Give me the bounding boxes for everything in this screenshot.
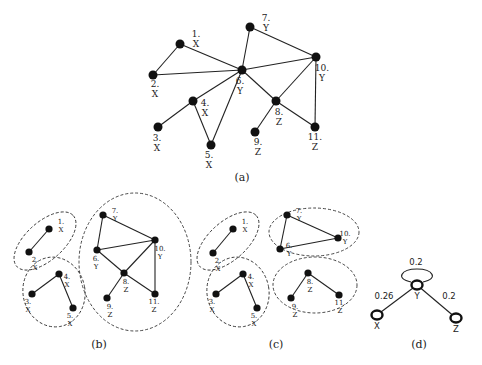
panel-caption: (c) xyxy=(269,338,284,351)
graph-node xyxy=(28,290,35,297)
node-class-label: Y xyxy=(93,263,99,271)
graph-node xyxy=(287,294,294,301)
panel-a-full-graph: 1.X2.X3.X4.X5.X6.Y7.Y8.Z9.Z10.Y11.Z(a) xyxy=(149,13,330,184)
node-number-label: 2. xyxy=(215,257,222,265)
graph-node xyxy=(229,225,236,232)
graph-node xyxy=(99,211,106,218)
class-node xyxy=(412,281,423,290)
edge xyxy=(153,44,180,75)
edge xyxy=(242,27,250,70)
node-number-label: 4. xyxy=(201,98,210,108)
edge xyxy=(153,70,242,75)
edge xyxy=(193,70,242,101)
graph-node xyxy=(246,23,255,32)
node-class-label: Z xyxy=(308,286,313,294)
cluster-boundary xyxy=(201,252,274,332)
node-number-label: 1. xyxy=(242,218,249,226)
node-class-label: Y xyxy=(296,215,302,223)
node-number-label: 10. xyxy=(315,63,329,73)
node-class-label: X xyxy=(59,226,64,234)
panel-c-refined-clusters: 1.X2.X3.X4.X5.X6.Y7.Y8.Z9.Z10.Y11.Z(c) xyxy=(187,201,359,351)
node-number-label: 1. xyxy=(192,29,201,39)
edge xyxy=(417,285,456,318)
node-number-label: 2. xyxy=(151,79,160,89)
node-number-label: 6. xyxy=(286,242,293,250)
node-class-label: Y xyxy=(318,73,326,83)
node-class-label: Z xyxy=(276,117,282,127)
graph-node xyxy=(93,246,100,253)
node-class-label: X xyxy=(193,39,200,49)
class-node-label: Z xyxy=(453,324,459,334)
node-class-label: X xyxy=(152,89,159,99)
graph-node xyxy=(251,128,260,137)
class-node-label: Y xyxy=(413,291,420,301)
edge-weight-label: 0.26 xyxy=(375,291,394,301)
node-number-label: 10. xyxy=(154,245,165,253)
graph-node xyxy=(311,123,320,132)
graph-node xyxy=(55,270,62,277)
edge xyxy=(250,27,316,57)
panel-caption: (d) xyxy=(411,338,427,351)
node-number-label: 3. xyxy=(209,298,216,306)
edge xyxy=(107,273,124,298)
node-class-label: Z xyxy=(312,142,318,152)
node-class-label: X xyxy=(252,320,257,328)
class-node-label: X xyxy=(374,321,380,331)
class-node xyxy=(372,311,383,320)
node-number-label: 9. xyxy=(107,303,114,311)
node-class-label: Z xyxy=(124,286,129,294)
node-number-label: 1. xyxy=(58,218,65,226)
node-number-label: 9. xyxy=(254,137,263,147)
node-class-label: Z xyxy=(152,306,157,314)
edge xyxy=(103,215,155,240)
graph-node xyxy=(103,294,110,301)
graph-node xyxy=(151,236,158,243)
node-number-label: 3. xyxy=(153,133,162,143)
node-number-label: 4. xyxy=(64,273,71,281)
node-class-label: Y xyxy=(236,86,244,96)
graph-node xyxy=(189,97,198,106)
node-class-label: X xyxy=(206,160,213,170)
node-class-label: Y xyxy=(286,250,292,258)
node-class-label: X xyxy=(249,281,254,289)
graph-node xyxy=(253,304,260,311)
graph-node xyxy=(335,291,342,298)
graph-node xyxy=(154,123,163,132)
graph-node xyxy=(238,66,247,75)
graph-node xyxy=(272,97,281,106)
graph-node xyxy=(312,53,321,62)
graph-node xyxy=(239,270,246,277)
node-number-label: 10. xyxy=(339,230,350,238)
node-number-label: 7. xyxy=(112,207,119,215)
node-number-label: 9. xyxy=(292,303,299,311)
cluster-boundary xyxy=(187,201,269,280)
node-class-label: X xyxy=(68,320,73,328)
graph-node xyxy=(120,269,127,276)
graph-node xyxy=(212,290,219,297)
node-number-label: 4. xyxy=(248,273,255,281)
panel-caption: (b) xyxy=(91,338,107,351)
node-number-label: 8. xyxy=(307,278,314,286)
node-class-label: X xyxy=(243,226,248,234)
node-number-label: 2. xyxy=(32,256,39,264)
edge xyxy=(180,44,242,70)
node-number-label: 7. xyxy=(296,207,303,215)
edge xyxy=(32,274,59,294)
edge xyxy=(213,229,233,253)
edge xyxy=(242,70,276,101)
cluster-boundary xyxy=(17,252,90,332)
class-node xyxy=(451,314,462,323)
node-number-label: 6. xyxy=(236,76,245,86)
edge xyxy=(158,101,193,127)
node-class-label: Y xyxy=(262,23,270,33)
node-number-label: 5. xyxy=(205,150,214,160)
graph-node xyxy=(45,225,52,232)
node-class-label: X xyxy=(216,265,221,273)
self-loop-weight-label: 0.2 xyxy=(409,257,423,267)
node-number-label: 8. xyxy=(123,278,130,286)
edge xyxy=(216,274,243,294)
graph-node xyxy=(176,40,185,49)
node-class-label: Y xyxy=(342,238,348,246)
node-class-label: Z xyxy=(255,147,261,157)
node-number-label: 8. xyxy=(275,107,284,117)
